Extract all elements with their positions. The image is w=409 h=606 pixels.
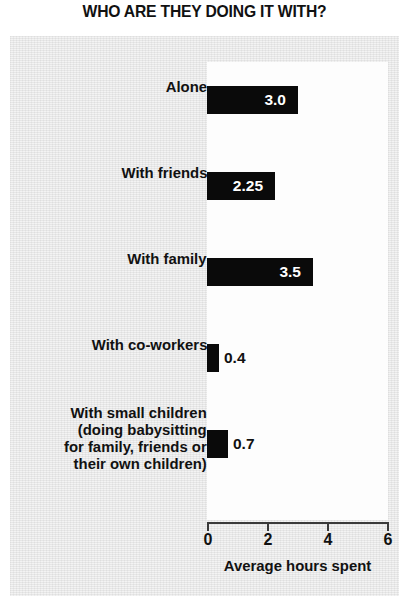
x-axis-tick [387, 522, 389, 531]
x-axis-title: Average hours spent [211, 557, 385, 575]
chart-card: Alone 3.0 With friends 2.25 With family … [10, 36, 399, 596]
category-label: With friends [121, 164, 207, 181]
x-axis-tick [267, 522, 269, 531]
x-axis-tick [327, 522, 329, 531]
value-label: 3.5 [207, 258, 301, 286]
category-label: Alone [166, 78, 207, 95]
value-label: 3.0 [207, 86, 286, 114]
category-label: With co-workers [91, 336, 207, 353]
value-label: 0.7 [233, 430, 255, 458]
category-label: With small children (doing babysitting f… [64, 404, 207, 472]
value-label: 0.4 [224, 344, 246, 372]
value-label: 2.25 [207, 172, 263, 200]
x-axis-tick [207, 522, 209, 531]
chart-figure: WHO ARE THEY DOING IT WITH? Alone 3.0 Wi… [0, 0, 409, 606]
bar [207, 344, 219, 372]
category-label: With family [128, 250, 207, 267]
chart-title: WHO ARE THEY DOING IT WITH? [10, 2, 399, 21]
x-axis-tick-label: 4 [313, 531, 343, 549]
x-axis-tick-label: 6 [373, 531, 403, 549]
x-axis-tick-label: 2 [253, 531, 283, 549]
x-axis-line [207, 522, 388, 524]
x-axis-tick-label: 0 [193, 531, 223, 549]
bar [207, 430, 228, 458]
